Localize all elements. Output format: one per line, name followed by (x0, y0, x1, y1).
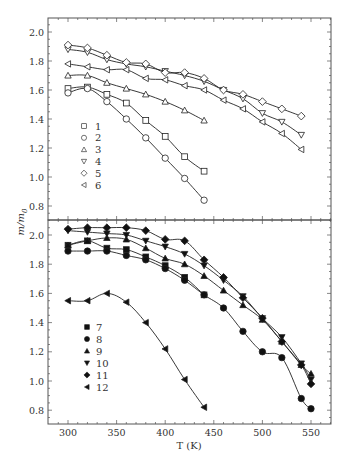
data-point-marker (143, 245, 149, 251)
x-axis-label: T (K) (176, 440, 201, 451)
legend-label: 12 (96, 382, 109, 393)
data-point-marker (162, 155, 168, 161)
data-point-marker (182, 154, 188, 160)
data-point-marker (181, 376, 187, 382)
data-point-marker (162, 98, 168, 104)
data-point-marker (162, 77, 168, 83)
data-point-marker (200, 75, 208, 83)
data-point-marker (308, 406, 314, 412)
data-point-marker (122, 224, 130, 232)
legend-marker (84, 361, 89, 366)
legend-label: 10 (96, 358, 109, 369)
y-axis-label-main: m/m (15, 213, 26, 235)
chart-figure: 0.81.01.21.41.61.82.0123456 0.81.01.21.4… (0, 0, 347, 471)
data-point-marker (123, 67, 129, 73)
legend-marker (81, 159, 86, 164)
legend-item: 4 (81, 156, 101, 167)
x-tick-label: 450 (205, 427, 223, 438)
data-point-marker (123, 116, 129, 122)
fit-curve (68, 88, 204, 200)
x-tick-label: 400 (156, 427, 174, 438)
upper-panel: 0.81.01.21.41.61.82.0123456 (29, 18, 331, 220)
data-point-marker (181, 175, 187, 181)
x-tick-label: 350 (108, 427, 126, 438)
data-point-marker (181, 277, 187, 283)
y-tick-label: 1.0 (29, 172, 44, 183)
data-point-marker (84, 248, 90, 254)
data-point-marker (279, 354, 285, 360)
data-point-marker (201, 117, 207, 123)
data-point-marker (259, 119, 265, 125)
data-point-marker (65, 90, 71, 96)
data-point-marker (201, 168, 207, 174)
y-tick-label: 2.0 (29, 230, 44, 241)
data-point-marker (162, 346, 168, 352)
data-point-marker (181, 82, 187, 88)
data-point-marker (240, 302, 246, 308)
y-tick-label: 1.8 (29, 56, 44, 67)
data-point-marker (162, 265, 168, 271)
legend-marker (82, 124, 87, 129)
data-point-marker (123, 100, 129, 106)
data-point-marker (123, 299, 129, 305)
legend-item: 11 (84, 370, 109, 381)
data-point-marker (220, 97, 226, 103)
legend-item: 7 (85, 322, 103, 333)
legend-marker (81, 135, 86, 140)
data-point-marker (259, 98, 267, 106)
legend-marker (81, 170, 87, 176)
data-point-marker (240, 328, 246, 334)
y-tick-label: 1.6 (29, 288, 44, 299)
data-point-marker (278, 105, 286, 113)
y-tick-label: 0.8 (29, 405, 44, 416)
legend-marker (84, 384, 89, 389)
data-point-marker (104, 248, 110, 254)
legend-label: 7 (96, 322, 102, 333)
data-point-marker (201, 404, 207, 410)
legend-marker (84, 348, 89, 353)
data-point-marker (201, 197, 207, 203)
data-point-marker (220, 305, 226, 311)
data-point-marker (104, 67, 110, 73)
series-3 (65, 72, 207, 123)
data-point-marker (181, 261, 187, 267)
data-point-marker (143, 135, 149, 141)
legend-item: 1 (82, 121, 102, 132)
legend-label: 2 (95, 132, 101, 143)
data-point-marker (65, 298, 71, 304)
legend: 123456 (81, 121, 101, 191)
y-tick-label: 1.4 (29, 114, 44, 125)
y-axis-label-subscript: 0 (21, 208, 29, 213)
data-point-marker (84, 298, 90, 304)
data-point-marker (65, 248, 71, 254)
data-point-marker (279, 130, 285, 136)
x-tick-label: 300 (59, 427, 77, 438)
data-point-marker (104, 98, 110, 104)
legend-label: 1 (95, 121, 101, 132)
y-tick-label: 1.2 (29, 346, 44, 357)
data-point-marker (65, 61, 71, 67)
data-point-marker (104, 91, 110, 97)
legend-marker (81, 182, 86, 187)
data-point-marker (259, 349, 265, 355)
series-1 (65, 84, 207, 174)
x-tick-label: 550 (302, 427, 320, 438)
data-point-marker (181, 251, 187, 257)
lower-panel: 0.81.01.21.41.61.82.03003504004505005507… (29, 220, 331, 438)
data-point-marker (161, 236, 169, 244)
legend-marker (84, 372, 90, 378)
series-7 (65, 238, 207, 298)
y-tick-label: 1.4 (29, 317, 44, 328)
legend-label: 6 (95, 180, 101, 191)
y-tick-label: 2.0 (29, 27, 44, 38)
data-point-marker (298, 395, 304, 401)
legend-label: 4 (95, 156, 101, 167)
data-point-marker (143, 75, 149, 81)
data-point-marker (143, 257, 149, 263)
legend-label: 11 (96, 370, 109, 381)
legend-label: 3 (95, 144, 101, 155)
data-point-marker (298, 132, 304, 138)
fit-curve (68, 75, 204, 121)
legend-item: 9 (84, 346, 102, 357)
svg-text:m/m0: m/m0 (15, 208, 29, 235)
